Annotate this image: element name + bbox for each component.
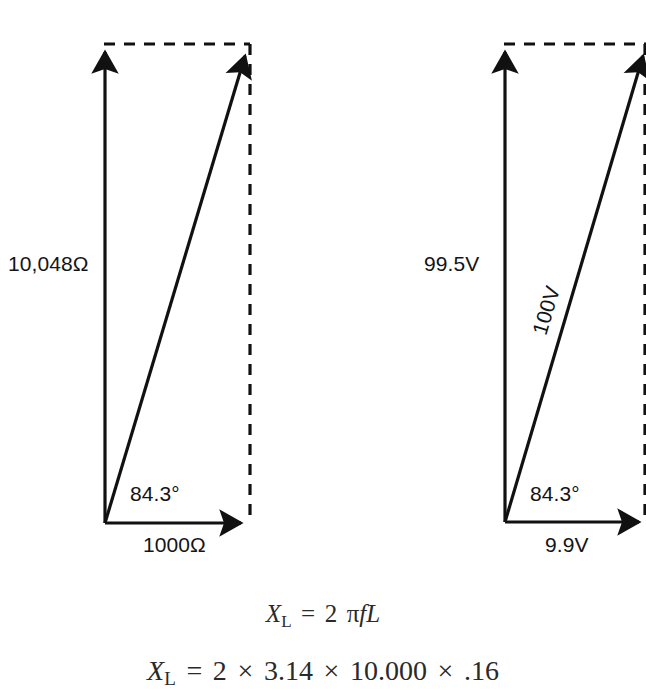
formula2-term-pi: 3.14 [264, 655, 313, 686]
formula2-term-frequency: 10.000 [350, 655, 427, 686]
phasor-diagram-vector-graphics [0, 0, 646, 690]
formula1-inductance-l: L [366, 600, 380, 627]
formula2-subscript-l: L [164, 668, 176, 689]
formula1-pi-symbol: π [347, 600, 360, 627]
impedance-horizontal-vector-label: 1000Ω [143, 534, 206, 555]
formula2-term-2: 2 [213, 655, 227, 686]
formula2-times-sign-2: × [324, 655, 340, 686]
formula1-variable-x: X [266, 600, 281, 627]
formula2-equals-sign: = [186, 655, 202, 686]
formula2-times-sign-3: × [438, 655, 454, 686]
figure-canvas: 10,048Ω 1000Ω 84.3° 99.5V 9.9V 84.3° 100… [0, 0, 646, 690]
reactance-formula-line-2: XL=2×3.14×10.000×.16 [0, 655, 646, 690]
formula2-variable-x: X [147, 655, 164, 686]
impedance-vertical-vector-label: 10,048Ω [8, 253, 89, 274]
impedance-angle-label: 84.3° [130, 483, 180, 504]
formula2-term-inductance: .16 [464, 655, 499, 686]
voltage-angle-label: 84.3° [530, 483, 580, 504]
impedance-resultant-vector-arrow [105, 56, 245, 523]
formula1-subscript-l: L [281, 612, 291, 631]
formula1-equals-sign: = [301, 600, 315, 627]
voltage-resultant-vector-arrow [505, 56, 643, 522]
reactance-formula-line-1: XL=2πfL [0, 600, 646, 632]
voltage-horizontal-vector-label: 9.9V [545, 534, 589, 555]
formula2-times-sign-1: × [237, 655, 253, 686]
voltage-phasor-diagram [504, 44, 646, 523]
voltage-vertical-vector-label: 99.5V [424, 253, 479, 274]
formula1-coefficient-2: 2 [325, 600, 338, 627]
impedance-phasor-diagram [104, 44, 250, 524]
